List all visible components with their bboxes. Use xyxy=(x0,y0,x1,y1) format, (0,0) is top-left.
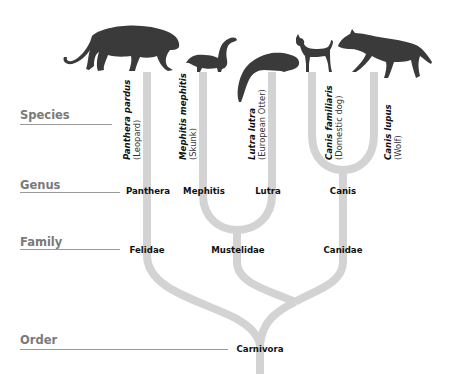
species-scientific-name: Canis lupus xyxy=(383,104,393,160)
species-common-name: (Leopard) xyxy=(132,80,142,160)
species-label-skunk: Mephitis mephitis (Skunk) xyxy=(178,73,198,160)
species-scientific-name: Canis familiaris xyxy=(324,85,334,160)
species-scientific-name: Lutra lutra xyxy=(247,89,257,160)
family-rule xyxy=(20,249,120,250)
mustelidae-branch xyxy=(237,230,295,302)
species-label-wolf: Canis lupus (Wolf) xyxy=(383,104,403,160)
family-mustelidae: Mustelidae xyxy=(211,245,264,255)
family-canidae: Canidae xyxy=(324,245,363,255)
order-carnivora: Carnivora xyxy=(237,344,284,354)
family-felidae: Felidae xyxy=(129,245,164,255)
genus-canis: Canis xyxy=(330,186,356,196)
rank-label-family: Family xyxy=(20,235,62,249)
genus-mephitis: Mephitis xyxy=(183,186,225,196)
species-rule xyxy=(20,124,112,125)
rank-label-genus: Genus xyxy=(20,178,60,192)
genus-lutra: Lutra xyxy=(255,186,281,196)
order-rule xyxy=(20,349,228,350)
rank-label-species: Species xyxy=(20,108,70,122)
genus-panthera: Panthera xyxy=(126,186,170,196)
genus-rule xyxy=(20,192,120,193)
species-common-name: (Wolf) xyxy=(393,104,403,160)
rank-label-order: Order xyxy=(20,333,57,347)
species-common-name: (Skunk) xyxy=(188,73,198,160)
species-common-name: (Domestic dog) xyxy=(334,85,344,160)
dog-silhouette-icon xyxy=(296,34,333,72)
carnivora-phylogeny-diagram: Species Genus Family Order Panthera pard… xyxy=(0,0,464,374)
leopard-silhouette-icon xyxy=(63,25,179,71)
species-scientific-name: Mephitis mephitis xyxy=(178,73,188,160)
species-label-otter: Lutra lutra (European Otter) xyxy=(247,89,267,160)
species-scientific-name: Panthera pardus xyxy=(122,80,132,160)
wolf-silhouette-icon xyxy=(338,29,432,78)
species-label-dog: Canis familiaris (Domestic dog) xyxy=(324,85,344,160)
mephitis-branch xyxy=(203,72,237,230)
species-common-name: (European Otter) xyxy=(257,89,267,160)
skunk-silhouette-icon xyxy=(186,38,237,72)
phylogenetic-tree xyxy=(0,0,464,374)
caniformia-branch xyxy=(260,302,295,345)
canis-lupus-branch xyxy=(343,72,374,170)
species-label-leopard: Panthera pardus (Leopard) xyxy=(122,80,142,160)
